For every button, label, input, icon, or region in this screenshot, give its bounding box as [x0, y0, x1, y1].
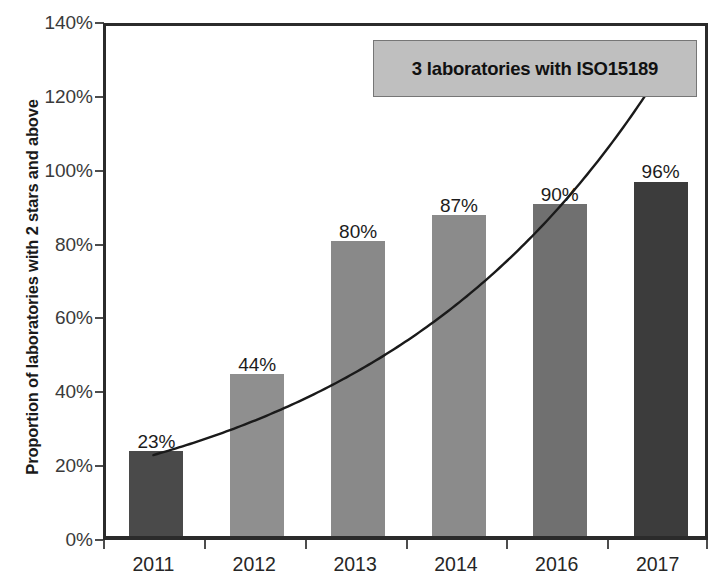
bar-chart-figure: Proportion of laboratories with 2 stars … — [0, 0, 714, 588]
x-axis-tick-label: 2016 — [507, 551, 607, 577]
bar-value-label: 96% — [616, 161, 706, 183]
y-axis-tick-label: 120% — [13, 87, 93, 107]
bar-value-label: 44% — [212, 354, 302, 376]
x-axis-tick-mark — [706, 540, 708, 549]
bar-value-label: 90% — [515, 184, 605, 206]
annotation-callout-box: 3 laboratories with ISO15189 — [373, 40, 697, 97]
y-axis-tick-label: 40% — [13, 382, 93, 402]
y-axis-tick-label: 60% — [13, 308, 93, 328]
bar — [230, 374, 284, 536]
x-axis-tick-mark — [103, 540, 105, 549]
y-axis-tick-label: 80% — [13, 235, 93, 255]
x-axis-tick-label: 2017 — [608, 551, 708, 577]
bar — [634, 182, 688, 537]
annotation-callout-label: 3 laboratories with ISO15189 — [412, 58, 658, 80]
x-axis-tick-mark — [305, 540, 307, 549]
x-axis-tick-label: 2013 — [305, 551, 405, 577]
bar-value-label: 23% — [111, 431, 201, 453]
x-axis-tick-labels: 201120122013201420162017 — [103, 551, 708, 581]
y-axis-tick-label: 20% — [13, 456, 93, 476]
y-axis-tick-labels: 0%20%40%60%80%100%120%140% — [0, 0, 93, 588]
bar — [432, 215, 486, 536]
bar-value-label: 80% — [313, 221, 403, 243]
y-axis-tick-label: 140% — [13, 13, 93, 33]
plot-inner: 23%44%80%87%90%96% — [106, 26, 705, 536]
x-axis-tick-mark — [406, 540, 408, 549]
x-axis-tick-label: 2014 — [406, 551, 506, 577]
y-axis-tick-label: 100% — [13, 161, 93, 181]
x-axis-tick-marks — [103, 540, 708, 550]
bar — [331, 241, 385, 536]
x-axis-tick-mark — [506, 540, 508, 549]
bar — [129, 451, 183, 536]
bar — [533, 204, 587, 536]
x-axis-tick-mark — [607, 540, 609, 549]
y-axis-tick-label: 0% — [13, 530, 93, 550]
bar-value-label: 87% — [414, 195, 504, 217]
plot-area: 23%44%80%87%90%96% — [103, 23, 708, 540]
x-axis-tick-mark — [204, 540, 206, 549]
x-axis-tick-label: 2012 — [204, 551, 304, 577]
x-axis-tick-label: 2011 — [103, 551, 203, 577]
